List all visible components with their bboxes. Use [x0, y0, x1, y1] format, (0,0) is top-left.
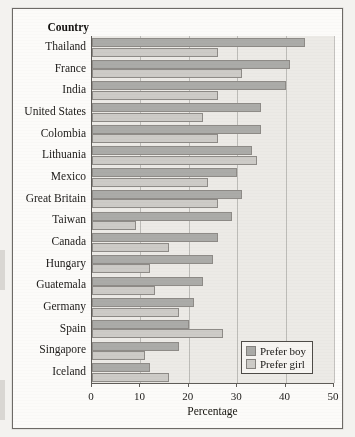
legend-item: Prefer girl: [246, 358, 306, 371]
x-tick: [333, 383, 334, 387]
bar-prefer-girl: [92, 134, 218, 143]
plot-area: [91, 36, 334, 383]
bar-prefer-boy: [92, 81, 286, 90]
x-tick: [91, 383, 92, 387]
y-tick-label: United States: [24, 106, 86, 118]
x-axis-title: Percentage: [91, 405, 334, 417]
bar-prefer-boy: [92, 60, 290, 69]
x-tick-label: 0: [88, 390, 94, 402]
bar-group: [92, 36, 334, 58]
bar-prefer-boy: [92, 298, 194, 307]
page-gutter-mark-top: [0, 250, 5, 290]
page-gutter-mark-bottom: [0, 380, 5, 420]
bar-prefer-girl: [92, 329, 223, 338]
bar-group: [92, 318, 334, 340]
legend-swatch-icon: [246, 359, 256, 369]
y-tick-label: Mexico: [51, 171, 86, 183]
bar-prefer-girl: [92, 113, 203, 122]
bar-prefer-girl: [92, 351, 145, 360]
y-tick-label: Germany: [43, 301, 86, 313]
bar-prefer-girl: [92, 91, 218, 100]
bar-prefer-girl: [92, 286, 155, 295]
y-tick-label: Canada: [52, 236, 86, 248]
y-tick-label: Great Britain: [26, 193, 86, 205]
x-tick-label: 50: [328, 390, 339, 402]
bar-group: [92, 231, 334, 253]
x-tick-label: 10: [134, 390, 145, 402]
bar-prefer-boy: [92, 277, 203, 286]
y-axis-tick-labels: ThailandFranceIndiaUnited StatesColombia…: [13, 36, 89, 383]
bar-group: [92, 123, 334, 145]
bar-prefer-boy: [92, 103, 261, 112]
y-tick-label: Singapore: [39, 344, 86, 356]
bar-prefer-boy: [92, 320, 189, 329]
bar-prefer-boy: [92, 168, 237, 177]
bar-group: [92, 79, 334, 101]
bar-prefer-girl: [92, 221, 136, 230]
x-tick: [188, 383, 189, 387]
y-tick-label: Thailand: [45, 41, 86, 53]
bar-prefer-girl: [92, 373, 169, 382]
y-axis-title: Country: [13, 21, 89, 33]
bar-prefer-boy: [92, 212, 232, 221]
legend-item: Prefer boy: [246, 345, 306, 358]
y-tick-label: Iceland: [52, 366, 86, 378]
x-axis: 01020304050: [91, 383, 334, 384]
bar-prefer-girl: [92, 156, 257, 165]
bar-group: [92, 166, 334, 188]
bar-group: [92, 58, 334, 80]
x-tick-label: 20: [182, 390, 193, 402]
bar-prefer-boy: [92, 146, 252, 155]
bar-group: [92, 275, 334, 297]
figure-frame: Country ThailandFranceIndiaUnited States…: [12, 8, 343, 429]
x-tick: [285, 383, 286, 387]
bar-group: [92, 253, 334, 275]
bar-prefer-boy: [92, 363, 150, 372]
bar-prefer-boy: [92, 38, 305, 47]
bar-prefer-boy: [92, 125, 261, 134]
y-tick-label: Guatemala: [36, 279, 86, 291]
chart-legend: Prefer boyPrefer girl: [241, 341, 313, 374]
legend-label: Prefer boy: [260, 345, 306, 358]
y-tick-label: Lithuania: [42, 149, 86, 161]
x-tick-label: 30: [231, 390, 242, 402]
y-tick-label: India: [62, 84, 86, 96]
y-tick-label: Colombia: [41, 128, 86, 140]
bar-prefer-boy: [92, 342, 179, 351]
bar-prefer-girl: [92, 243, 169, 252]
bar-prefer-boy: [92, 190, 242, 199]
bar-prefer-girl: [92, 199, 218, 208]
y-tick-label: France: [55, 63, 86, 75]
bar-group: [92, 188, 334, 210]
scanned-page: Country ThailandFranceIndiaUnited States…: [0, 0, 355, 437]
bar-prefer-girl: [92, 308, 179, 317]
gridline: [334, 36, 335, 383]
y-tick-label: Hungary: [46, 258, 86, 270]
x-tick: [139, 383, 140, 387]
bar-prefer-girl: [92, 178, 208, 187]
bar-prefer-girl: [92, 69, 242, 78]
bar-group: [92, 144, 334, 166]
bar-group: [92, 296, 334, 318]
legend-swatch-icon: [246, 346, 256, 356]
bar-prefer-boy: [92, 255, 213, 264]
bar-group: [92, 210, 334, 232]
bar-prefer-girl: [92, 264, 150, 273]
bar-group: [92, 101, 334, 123]
y-tick-label: Taiwan: [52, 214, 86, 226]
bar-prefer-girl: [92, 48, 218, 57]
x-tick: [236, 383, 237, 387]
bar-prefer-boy: [92, 233, 218, 242]
y-tick-label: Spain: [60, 323, 86, 335]
x-tick-label: 40: [279, 390, 290, 402]
legend-label: Prefer girl: [260, 358, 305, 371]
